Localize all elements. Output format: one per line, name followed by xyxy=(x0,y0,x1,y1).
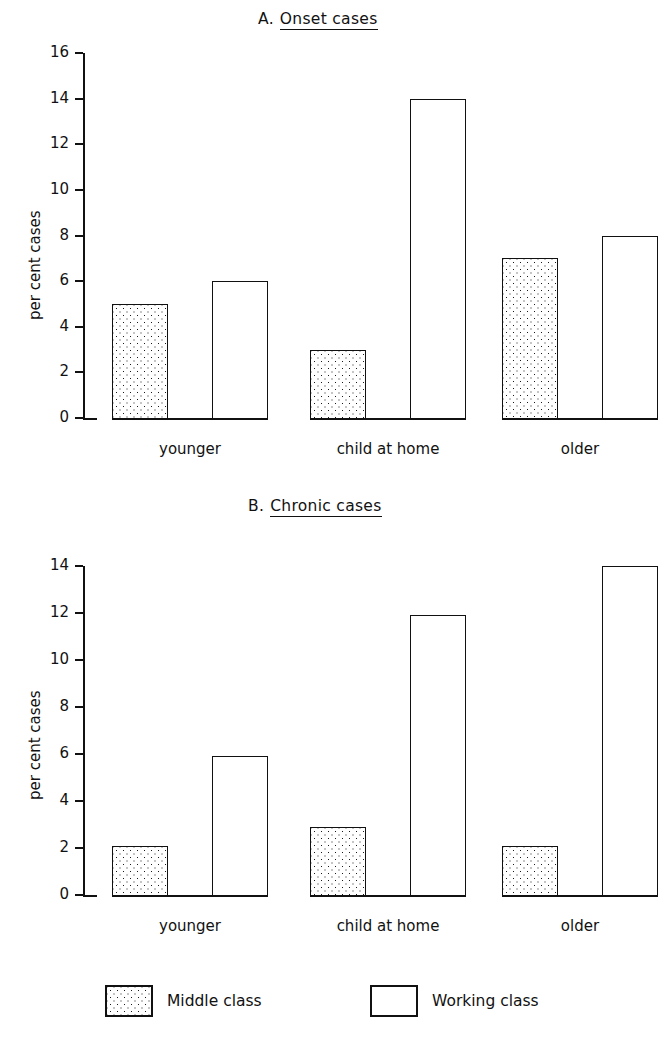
axis-corner-b xyxy=(83,895,97,897)
legend-label-working: Working class xyxy=(432,992,539,1010)
y-tick-b-12 xyxy=(75,612,83,614)
y-tick-a-6 xyxy=(75,280,83,282)
y-tick-label-a-6: 6 xyxy=(25,271,69,289)
y-tick-label-b-4: 4 xyxy=(25,791,69,809)
panel-a-title-text: Onset cases xyxy=(280,10,378,30)
bar-a-0-middle-class xyxy=(112,304,168,419)
y-tick-b-14 xyxy=(75,565,83,567)
panel-a-title: A.Onset cases xyxy=(258,10,378,28)
y-tick-b-6 xyxy=(75,753,83,755)
y-tick-label-b-10: 10 xyxy=(25,650,69,668)
bar-b-0-working-class xyxy=(212,756,268,896)
x-category-label-a-2: older xyxy=(462,440,665,458)
y-tick-label-a-0: 0 xyxy=(25,408,69,426)
y-tick-a-8 xyxy=(75,235,83,237)
y-tick-label-b-0: 0 xyxy=(25,885,69,903)
legend-item-working[interactable]: Working class xyxy=(370,985,539,1017)
bar-b-1-working-class xyxy=(410,615,466,896)
y-tick-label-b-2: 2 xyxy=(25,838,69,856)
figure-bar-charts: A.Onset cases per cent cases 02468101214… xyxy=(0,0,665,1051)
bar-b-2-working-class xyxy=(602,566,658,896)
bar-a-1-middle-class xyxy=(310,350,366,419)
x-category-label-b-2: older xyxy=(462,917,665,935)
panel-b-title-prefix: B. xyxy=(248,497,264,515)
legend-swatch-working xyxy=(370,985,418,1017)
legend-swatch-middle xyxy=(105,985,153,1017)
y-tick-b-0 xyxy=(75,894,83,896)
panel-a-title-prefix: A. xyxy=(258,10,274,28)
y-tick-b-2 xyxy=(75,847,83,849)
y-tick-label-b-8: 8 xyxy=(25,697,69,715)
y-tick-a-4 xyxy=(75,326,83,328)
y-tick-label-b-6: 6 xyxy=(25,744,69,762)
y-axis-line-b xyxy=(83,566,85,897)
bar-a-2-working-class xyxy=(602,236,658,420)
bar-a-1-working-class xyxy=(410,99,466,419)
y-tick-a-0 xyxy=(75,417,83,419)
y-tick-b-4 xyxy=(75,800,83,802)
panel-b-title: B.Chronic cases xyxy=(248,497,382,515)
y-tick-a-16 xyxy=(75,52,83,54)
bar-b-2-middle-class xyxy=(502,846,558,896)
y-tick-label-a-14: 14 xyxy=(25,89,69,107)
y-tick-a-2 xyxy=(75,371,83,373)
legend-item-middle[interactable]: Middle class xyxy=(105,985,262,1017)
bar-b-1-middle-class xyxy=(310,827,366,896)
y-tick-a-10 xyxy=(75,189,83,191)
y-tick-b-10 xyxy=(75,659,83,661)
y-axis-line-a xyxy=(83,53,85,420)
bar-a-2-middle-class xyxy=(502,258,558,419)
bar-b-0-middle-class xyxy=(112,846,168,896)
y-tick-label-a-4: 4 xyxy=(25,317,69,335)
panel-b-title-text: Chronic cases xyxy=(270,497,381,517)
y-tick-label-a-2: 2 xyxy=(25,362,69,380)
axis-corner-a xyxy=(83,418,97,420)
legend-label-middle: Middle class xyxy=(167,992,262,1010)
y-tick-b-8 xyxy=(75,706,83,708)
y-tick-a-12 xyxy=(75,143,83,145)
bar-a-0-working-class xyxy=(212,281,268,419)
y-tick-label-a-16: 16 xyxy=(25,43,69,61)
y-tick-label-a-12: 12 xyxy=(25,134,69,152)
y-tick-label-a-8: 8 xyxy=(25,226,69,244)
y-tick-label-b-14: 14 xyxy=(25,556,69,574)
y-tick-a-14 xyxy=(75,98,83,100)
y-tick-label-b-12: 12 xyxy=(25,603,69,621)
y-tick-label-a-10: 10 xyxy=(25,180,69,198)
